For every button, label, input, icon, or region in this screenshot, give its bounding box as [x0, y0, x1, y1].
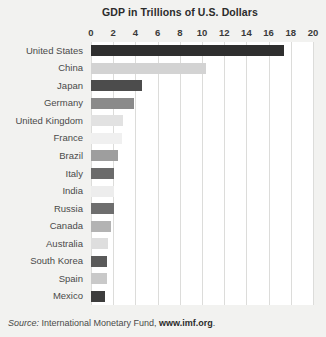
- bar-row: [91, 115, 313, 126]
- category-label: Russia: [54, 204, 83, 214]
- plot-area: [91, 42, 313, 305]
- x-tick-label: 18: [286, 27, 297, 38]
- bar-row: [91, 80, 313, 91]
- source-url: www.imf.org: [159, 318, 213, 328]
- bar: [91, 221, 111, 232]
- bar: [91, 80, 142, 91]
- bar-row: [91, 186, 313, 197]
- bar: [91, 115, 123, 126]
- x-tick-label: 2: [111, 27, 116, 38]
- category-label: Brazil: [59, 151, 83, 161]
- bar-row: [91, 221, 313, 232]
- gdp-bar-chart: GDP in Trillions of U.S. Dollars 0246810…: [0, 0, 326, 337]
- bar-row: [91, 45, 313, 56]
- x-axis-tick-labels: 02468101214161820: [91, 27, 313, 41]
- category-label: France: [53, 133, 83, 143]
- bar: [91, 256, 107, 267]
- category-label: China: [58, 63, 83, 73]
- chart-title: GDP in Trillions of U.S. Dollars: [0, 6, 326, 18]
- gridline: [313, 42, 314, 305]
- bar-row: [91, 133, 313, 144]
- category-label: United States: [26, 46, 83, 56]
- x-tick-label: 6: [155, 27, 160, 38]
- bar: [91, 63, 206, 74]
- category-label: Germany: [44, 98, 83, 108]
- x-tick-label: 8: [177, 27, 182, 38]
- bar-row: [91, 63, 313, 74]
- source-suffix: .: [213, 318, 216, 328]
- bar-row: [91, 168, 313, 179]
- bar: [91, 98, 134, 109]
- x-tick-label: 20: [308, 27, 319, 38]
- category-label: Canada: [50, 221, 83, 231]
- bar: [91, 45, 284, 56]
- bar-row: [91, 150, 313, 161]
- bar: [91, 186, 114, 197]
- bar: [91, 168, 114, 179]
- category-label: Italy: [66, 169, 83, 179]
- bar-row: [91, 238, 313, 249]
- category-label: India: [62, 186, 83, 196]
- bar: [91, 133, 122, 144]
- bar: [91, 150, 118, 161]
- source-text: International Monetary Fund,: [39, 318, 159, 328]
- x-tick-label: 10: [197, 27, 208, 38]
- category-label: Australia: [46, 239, 83, 249]
- category-label: Mexico: [53, 291, 83, 301]
- source-note: Source: International Monetary Fund, www…: [8, 318, 215, 328]
- category-label: South Korea: [30, 256, 83, 266]
- x-tick-label: 16: [263, 27, 274, 38]
- bar: [91, 291, 105, 302]
- bar: [91, 273, 107, 284]
- bar-row: [91, 273, 313, 284]
- category-label: United Kingdom: [15, 116, 83, 126]
- category-label: Japan: [57, 81, 83, 91]
- x-tick-label: 4: [133, 27, 138, 38]
- bar: [91, 238, 108, 249]
- bar-row: [91, 291, 313, 302]
- category-axis-labels: United StatesChinaJapanGermanyUnited Kin…: [0, 42, 88, 305]
- x-tick-label: 14: [241, 27, 252, 38]
- bar-row: [91, 256, 313, 267]
- x-tick-label: 12: [219, 27, 230, 38]
- bar-row: [91, 203, 313, 214]
- bar: [91, 203, 114, 214]
- category-label: Spain: [59, 274, 83, 284]
- bar-row: [91, 98, 313, 109]
- source-prefix: Source:: [8, 318, 39, 328]
- x-tick-label: 0: [88, 27, 93, 38]
